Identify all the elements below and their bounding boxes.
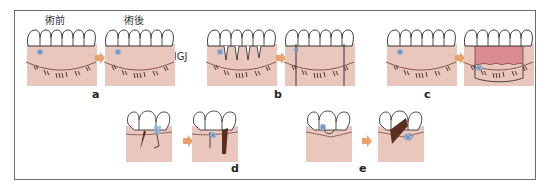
panel-b-before (206, 28, 278, 86)
letter-a: a (92, 88, 99, 101)
arrow-e (362, 135, 372, 147)
panel-c-before (386, 28, 458, 86)
panel-a-before (26, 28, 98, 86)
letter-b: b (274, 88, 282, 101)
panel-b-after (284, 28, 356, 86)
label-after: 術後 (124, 12, 144, 27)
panel-a-after (104, 28, 176, 86)
letter-c: c (424, 88, 431, 101)
panel-d-before (126, 110, 172, 162)
letter-d: d (231, 162, 239, 175)
panel-c-after (463, 28, 535, 86)
label-before: 術前 (45, 12, 65, 27)
panel-d-after (192, 110, 238, 162)
letter-e: e (359, 162, 366, 175)
panel-e-after (378, 110, 424, 162)
panel-e-before (306, 110, 352, 162)
